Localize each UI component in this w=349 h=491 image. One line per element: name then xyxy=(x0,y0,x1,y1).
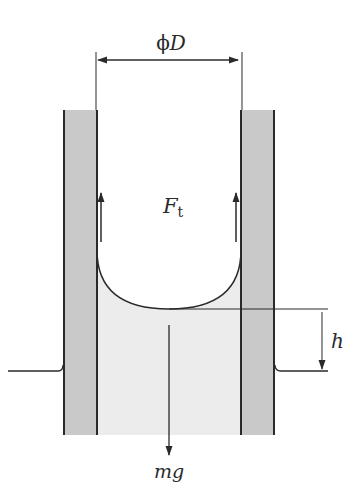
weight-label: mg xyxy=(154,460,184,482)
outer-liquid-surface-right xyxy=(275,365,328,371)
force-label: Ft xyxy=(162,194,184,220)
left-tube-wall xyxy=(64,110,97,435)
right-tube-wall xyxy=(241,110,274,435)
height-label: h xyxy=(331,329,344,353)
outer-liquid-surface-left xyxy=(8,365,63,371)
diameter-label: ϕD xyxy=(156,31,186,55)
capillary-diagram: ϕD Ft h mg xyxy=(0,0,349,491)
